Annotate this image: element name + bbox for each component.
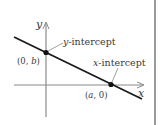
y-point-open: (0,: [17, 56, 31, 66]
x-point-close: , 0): [93, 90, 107, 100]
x-intercept-leader: [112, 68, 118, 82]
intercepts-diagram: y x y-intercept x-intercept (0, b) (a, 0…: [0, 0, 162, 125]
x-point-label: (a, 0): [85, 90, 108, 100]
y-point-close: ): [37, 56, 40, 66]
x-intercept-point: [108, 82, 113, 87]
y-intercept-text: -intercept: [68, 36, 115, 47]
x-intercept-text: -intercept: [98, 57, 145, 68]
y-point-label: (0, b): [17, 56, 40, 66]
right-border: [154, 0, 156, 125]
y-intercept-label: y-intercept: [62, 36, 116, 47]
y-axis-label: y: [35, 18, 43, 31]
x-axis-label: x: [138, 87, 145, 100]
y-intercept-leader: [48, 43, 63, 51]
x-intercept-label: x-intercept: [93, 57, 146, 68]
y-intercept-point: [43, 50, 48, 55]
